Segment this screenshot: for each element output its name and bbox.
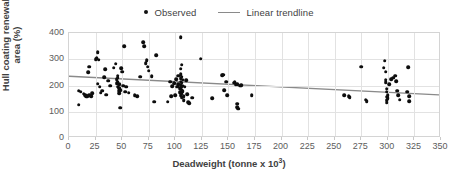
x-tick-label: 350 [425, 141, 455, 151]
data-point [86, 71, 90, 75]
line-marker-icon [218, 12, 240, 13]
data-point [152, 100, 156, 104]
x-tick-mark [148, 137, 149, 140]
y-tick-label: 400 [38, 27, 64, 37]
data-point [87, 65, 91, 69]
data-point [117, 92, 121, 96]
data-point [122, 45, 126, 49]
data-point [166, 100, 170, 104]
data-point [118, 88, 122, 92]
data-point [236, 107, 240, 111]
data-point [181, 89, 185, 93]
data-point [142, 40, 146, 44]
data-point [385, 101, 389, 105]
x-tick-mark [174, 137, 175, 140]
x-axis-tick-labels: 0255075100125150175200225250275300325350 [0, 141, 458, 155]
data-point [342, 93, 346, 97]
data-point [91, 91, 95, 95]
data-point [182, 98, 186, 102]
data-point [365, 99, 369, 103]
x-tick-label: 25 [80, 141, 110, 151]
data-point [77, 103, 81, 107]
data-point [407, 99, 411, 103]
x-tick-label: 0 [53, 141, 83, 151]
data-point [145, 59, 149, 63]
data-point [396, 89, 400, 93]
x-tick-mark [281, 137, 282, 140]
data-point [97, 58, 101, 62]
data-point [114, 62, 118, 66]
x-tick-label: 100 [159, 141, 189, 151]
legend-item-linear-trendline: Linear trendline [218, 7, 313, 18]
x-tick-label: 300 [372, 141, 402, 151]
data-point [382, 66, 386, 70]
data-point [384, 70, 388, 74]
data-point [386, 96, 390, 100]
data-point [407, 94, 411, 98]
x-tick-mark [413, 137, 414, 140]
x-tick-mark [387, 137, 388, 140]
x-tick-mark [440, 137, 441, 140]
legend-label-linear-trendline: Linear trendline [246, 7, 313, 18]
data-point [185, 93, 189, 97]
data-point [147, 69, 151, 73]
dot-marker-icon [144, 10, 148, 14]
data-point [383, 59, 387, 63]
data-point [397, 93, 401, 97]
gridline-vertical [282, 33, 283, 136]
x-tick-mark [307, 137, 308, 140]
data-point [102, 75, 106, 79]
data-point [199, 57, 203, 61]
data-point [173, 93, 177, 97]
data-point [146, 65, 150, 69]
x-tick-label: 275 [345, 141, 375, 151]
x-tick-label: 150 [212, 141, 242, 151]
x-tick-mark [201, 137, 202, 140]
data-point [175, 77, 179, 81]
data-point [226, 94, 230, 98]
data-point [179, 36, 183, 40]
x-axis-title-close: ) [282, 158, 285, 169]
data-point [405, 90, 409, 94]
data-point [103, 67, 107, 71]
data-point [387, 83, 391, 87]
data-point [222, 88, 226, 92]
x-tick-mark [334, 137, 335, 140]
data-point [187, 101, 191, 105]
data-point [135, 94, 139, 98]
gridline-vertical [335, 33, 336, 136]
x-tick-label: 250 [319, 141, 349, 151]
data-point [100, 89, 104, 93]
scatter-chart-figure: Observed Linear trendline Hull coating r… [0, 0, 458, 179]
data-point [184, 78, 188, 82]
data-point [394, 74, 398, 78]
gridline-vertical [228, 33, 229, 136]
x-tick-label: 125 [186, 141, 216, 151]
x-tick-mark [227, 137, 228, 140]
data-point [138, 75, 142, 79]
data-point [154, 53, 158, 57]
data-point [398, 98, 402, 102]
x-tick-mark [95, 137, 96, 140]
x-tick-mark [121, 137, 122, 140]
data-point [127, 91, 131, 95]
legend-label-observed: Observed [154, 7, 196, 18]
data-point [96, 51, 100, 55]
data-point [107, 79, 111, 83]
x-tick-label: 75 [133, 141, 163, 151]
y-tick-label: 200 [38, 80, 64, 90]
x-tick-mark [360, 137, 361, 140]
data-point [225, 80, 229, 84]
data-point [143, 45, 147, 49]
legend-item-observed: Observed [144, 7, 196, 18]
data-point [109, 84, 113, 88]
gridline-vertical [202, 33, 203, 136]
data-point [183, 85, 187, 89]
x-tick-label: 325 [398, 141, 428, 151]
gridline-vertical [414, 33, 415, 136]
data-point [239, 83, 243, 87]
data-point [169, 94, 173, 98]
y-tick-label: 100 [38, 106, 64, 116]
x-tick-label: 50 [106, 141, 136, 151]
data-point [348, 95, 352, 99]
